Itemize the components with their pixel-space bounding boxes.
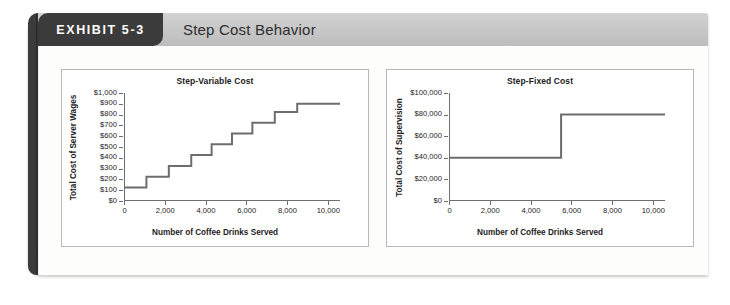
y-tick-label: $300 bbox=[100, 163, 117, 172]
x-axis-tick: 2,000 bbox=[165, 201, 166, 205]
y-tick-mark bbox=[444, 93, 448, 94]
x-tick-label: 8,000 bbox=[278, 206, 297, 215]
y-tick-label: $700 bbox=[100, 120, 117, 129]
x-tick-label: 4,000 bbox=[196, 206, 215, 215]
x-tick-label: 2,000 bbox=[156, 206, 175, 215]
y-tick-label: $100 bbox=[100, 185, 117, 194]
y-tick-mark bbox=[119, 158, 123, 159]
y-tick-label: $0 bbox=[434, 196, 442, 205]
x-axis-label: Number of Coffee Drinks Served bbox=[62, 228, 368, 237]
step-line-series bbox=[449, 93, 665, 201]
y-axis-tick: $500 bbox=[123, 147, 124, 148]
x-tick-label: 6,000 bbox=[237, 206, 256, 215]
chart-panel-step-variable-cost: Step-Variable Cost Total Cost of Server … bbox=[61, 69, 369, 247]
y-tick-label: $200 bbox=[100, 174, 117, 183]
y-axis-tick: $900 bbox=[123, 104, 124, 105]
y-axis-label: Total Cost of Server Wages bbox=[68, 93, 80, 201]
plot-area: $0$100$200$300$400$500$600$700$800$900$1… bbox=[124, 93, 340, 201]
chart-panel-step-fixed-cost: Step-Fixed Cost Total Cost of Supervisio… bbox=[386, 69, 694, 247]
x-axis-tick: 0 bbox=[449, 201, 450, 205]
y-axis-tick: $600 bbox=[123, 136, 124, 137]
x-axis-tick: 4,000 bbox=[206, 201, 207, 205]
y-axis-tick: $40,000 bbox=[448, 158, 449, 159]
x-axis-tick: 6,000 bbox=[246, 201, 247, 205]
y-axis-tick: $1,000 bbox=[123, 93, 124, 94]
step-cost-line bbox=[449, 115, 665, 158]
y-tick-mark bbox=[119, 190, 123, 191]
y-axis-tick: $200 bbox=[123, 179, 124, 180]
y-axis-tick: $800 bbox=[123, 115, 124, 116]
y-tick-label: $80,000 bbox=[415, 109, 442, 118]
y-axis-tick: $700 bbox=[123, 125, 124, 126]
y-tick-mark bbox=[444, 158, 448, 159]
y-tick-mark bbox=[119, 115, 123, 116]
y-tick-mark bbox=[444, 179, 448, 180]
y-axis-tick: $300 bbox=[123, 169, 124, 170]
y-tick-mark bbox=[119, 93, 123, 94]
y-tick-label: $0 bbox=[109, 196, 117, 205]
y-tick-label: $1,000 bbox=[94, 88, 117, 97]
y-tick-label: $500 bbox=[100, 142, 117, 151]
y-tick-label: $900 bbox=[100, 98, 117, 107]
exhibit-number-tab: EXHIBIT 5-3 bbox=[38, 13, 163, 46]
y-tick-mark bbox=[119, 104, 123, 105]
y-tick-label: $100,000 bbox=[410, 88, 442, 97]
y-tick-mark bbox=[119, 179, 123, 180]
step-cost-line bbox=[124, 104, 340, 188]
x-axis-tick: 10,000 bbox=[328, 201, 329, 205]
x-tick-label: 8,000 bbox=[603, 206, 622, 215]
x-axis-tick: 4,000 bbox=[531, 201, 532, 205]
chart-title: Step-Fixed Cost bbox=[387, 76, 693, 86]
x-tick-label: 6,000 bbox=[562, 206, 581, 215]
y-axis-tick: $100,000 bbox=[448, 93, 449, 94]
x-axis-tick: 10,000 bbox=[653, 201, 654, 205]
exhibit-title: Step Cost Behavior bbox=[183, 13, 316, 46]
y-tick-mark bbox=[119, 125, 123, 126]
y-axis-tick: $20,000 bbox=[448, 179, 449, 180]
y-tick-mark bbox=[119, 136, 123, 137]
x-axis-tick: 8,000 bbox=[612, 201, 613, 205]
y-axis-tick: $60,000 bbox=[448, 136, 449, 137]
y-tick-label: $800 bbox=[100, 109, 117, 118]
x-tick-label: 10,000 bbox=[317, 206, 340, 215]
x-axis-label: Number of Coffee Drinks Served bbox=[387, 228, 693, 237]
y-tick-mark bbox=[444, 136, 448, 137]
x-axis-tick: 6,000 bbox=[571, 201, 572, 205]
exhibit-number-label: EXHIBIT 5-3 bbox=[56, 23, 144, 37]
x-tick-label: 0 bbox=[122, 206, 126, 215]
step-line-series bbox=[124, 93, 340, 201]
charts-container: Step-Variable Cost Total Cost of Server … bbox=[38, 46, 708, 275]
y-axis-tick: $80,000 bbox=[448, 115, 449, 116]
plot-area: $0$20,000$40,000$60,000$80,000$100,00002… bbox=[449, 93, 665, 201]
y-tick-label: $400 bbox=[100, 152, 117, 161]
x-tick-label: 0 bbox=[447, 206, 451, 215]
chart-title: Step-Variable Cost bbox=[62, 76, 368, 86]
y-tick-mark bbox=[119, 147, 123, 148]
x-tick-label: 10,000 bbox=[642, 206, 665, 215]
y-tick-mark bbox=[119, 201, 123, 202]
x-axis-tick: 0 bbox=[124, 201, 125, 205]
y-axis-label: Total Cost of Supervision bbox=[393, 93, 405, 201]
y-axis-tick: $400 bbox=[123, 158, 124, 159]
y-tick-mark bbox=[119, 169, 123, 170]
y-tick-label: $20,000 bbox=[415, 174, 442, 183]
x-axis-tick: 2,000 bbox=[490, 201, 491, 205]
exhibit-header: EXHIBIT 5-3 Step Cost Behavior bbox=[38, 13, 708, 46]
x-axis-tick: 8,000 bbox=[287, 201, 288, 205]
y-tick-label: $40,000 bbox=[415, 152, 442, 161]
x-tick-label: 4,000 bbox=[521, 206, 540, 215]
y-axis-tick: $100 bbox=[123, 190, 124, 191]
y-tick-mark bbox=[444, 115, 448, 116]
y-tick-label: $60,000 bbox=[415, 131, 442, 140]
exhibit-page: EXHIBIT 5-3 Step Cost Behavior Step-Vari… bbox=[0, 0, 730, 305]
x-tick-label: 2,000 bbox=[481, 206, 500, 215]
y-tick-mark bbox=[444, 201, 448, 202]
exhibit-card: EXHIBIT 5-3 Step Cost Behavior Step-Vari… bbox=[28, 13, 708, 275]
y-tick-label: $600 bbox=[100, 131, 117, 140]
